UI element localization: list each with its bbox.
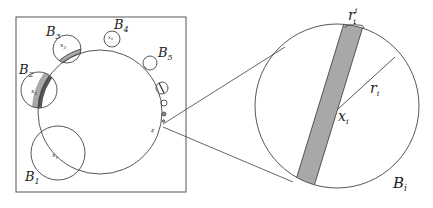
limit-point-label: z [150,126,155,133]
width-label: rii [348,6,358,26]
radius-label: ri [370,80,380,98]
ball-i-label: Bi [392,174,407,193]
ball-3-center-label: x3 [60,41,66,50]
ball-6-strip [159,83,164,93]
center-label: xi [338,108,349,126]
ball-5-label: B5 [157,45,173,62]
ball-1-label: B1 [24,169,40,186]
right-panel: rii ri xi Bi [255,6,419,196]
ball-7 [161,100,167,106]
ball-1 [31,126,85,180]
ball-4-center-label: x4 [108,34,113,41]
zoom-line-bottom [163,127,293,182]
ball-3-label: B3 [45,24,61,41]
diagram: B1 x1 B2 x2 B3 x3 B4 x4 B5 z rii ri xi B… [0,0,433,208]
ball-9 [162,120,165,123]
ball-8 [162,112,166,116]
ball-5 [143,56,157,70]
zoom-line-top [163,47,285,124]
ball-2-label: B2 [18,62,34,79]
ball-4-label: B4 [113,17,129,34]
left-panel: B1 x1 B2 x2 B3 x3 B4 x4 B5 z [16,17,186,192]
shaded-strip [291,20,365,196]
ball-1-center-label: x1 [52,151,58,160]
